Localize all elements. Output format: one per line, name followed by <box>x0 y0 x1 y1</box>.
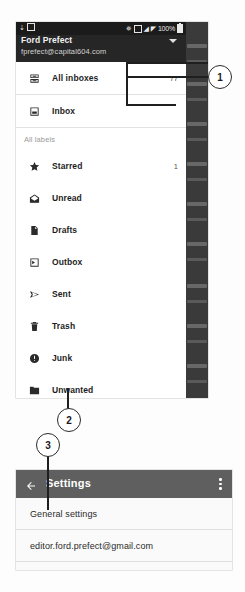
section-header-all-labels: All labels <box>16 128 186 150</box>
drawer-item-count: 77 <box>170 74 178 83</box>
settings-option-account-1[interactable]: editor.ford.prefect@gmail.com <box>16 530 232 561</box>
chevron-down-icon[interactable] <box>169 39 177 43</box>
settings-option-account-2[interactable]: ford.prefect@capital604.com <box>16 562 232 570</box>
callout-1-leader-horizontal <box>126 76 208 78</box>
drawer-item-label: Junk <box>52 353 72 363</box>
settings-option-label: General settings <box>16 509 97 519</box>
settings-option-label: editor.ford.prefect@gmail.com <box>16 541 153 551</box>
outbox-icon <box>16 257 52 268</box>
drawer-item-label: Inbox <box>52 106 75 116</box>
vibrate-icon <box>134 25 142 33</box>
status-bar-left-icons: ⇣ <box>19 23 35 31</box>
drawer-item-unread[interactable]: Unread <box>16 182 186 214</box>
dimmed-mail-list-background <box>186 22 208 398</box>
drawer-item-label: All inboxes <box>52 73 98 83</box>
inbox-icon <box>16 106 52 117</box>
status-bar: ⇣ ✵ ◢ ◤ 100% <box>16 22 186 35</box>
drawer-item-label: Outbox <box>52 257 82 267</box>
sent-paper-plane-icon <box>16 289 52 300</box>
account-email: fprefect@capital604.com <box>21 47 106 56</box>
callout-number: 2 <box>66 415 72 426</box>
drawer-item-trash[interactable]: Trash <box>16 310 186 342</box>
figure-page: Ford Prefect fprefect@capital604.com ⇣ ✵… <box>0 0 245 592</box>
drawer-item-inbox[interactable]: Inbox <box>16 95 186 127</box>
drawer-item-label: Trash <box>52 321 75 331</box>
drawer-item-label: Starred <box>52 161 82 171</box>
drawer-item-label: Unread <box>52 193 82 203</box>
back-arrow-icon[interactable] <box>25 478 37 490</box>
app-notification-icon <box>27 23 35 31</box>
drawer-item-all-inboxes[interactable]: All inboxes 77 <box>16 62 186 94</box>
drawer-item-label: Drafts <box>52 225 77 235</box>
download-icon: ⇣ <box>19 24 25 31</box>
junk-alert-icon <box>16 353 52 364</box>
callout-1-leader-top <box>126 62 208 64</box>
navigation-drawer: All inboxes 77 Inbox All labels Starred <box>16 62 186 398</box>
drawer-item-unwanted[interactable]: Unwanted <box>16 374 186 398</box>
callout-number: 3 <box>45 440 51 451</box>
callout-1-leader-vertical <box>126 62 128 106</box>
all-inboxes-icon <box>16 73 52 84</box>
battery-full-icon <box>177 24 183 33</box>
battery-percent-label: 100% <box>158 25 175 32</box>
folder-icon <box>16 385 52 396</box>
callout-3: 3 <box>36 433 60 457</box>
drawer-item-drafts[interactable]: Drafts <box>16 214 186 246</box>
callout-number: 1 <box>217 72 223 83</box>
drawer-item-count: 1 <box>174 162 178 171</box>
drafts-file-icon <box>16 225 52 236</box>
drawer-item-junk[interactable]: Junk <box>16 342 186 374</box>
star-icon <box>16 161 52 172</box>
status-bar-right-icons: ✵ ◢ ◤ 100% <box>126 22 183 35</box>
trash-icon <box>16 321 52 332</box>
cellular-signal-icon: ◤ <box>151 25 156 32</box>
overflow-menu-icon[interactable] <box>219 478 222 491</box>
unread-envelope-icon <box>16 193 52 204</box>
account-name: Ford Prefect <box>21 35 72 45</box>
section-header-label: All labels <box>16 135 55 144</box>
wifi-icon: ◢ <box>144 25 149 32</box>
drawer-item-outbox[interactable]: Outbox <box>16 246 186 278</box>
callout-3-leader <box>47 452 49 510</box>
callout-1: 1 <box>208 65 232 89</box>
drawer-item-starred[interactable]: Starred 1 <box>16 150 186 182</box>
callout-2: 2 <box>57 408 81 432</box>
drawer-item-label: Sent <box>52 289 71 299</box>
callout-1-leader-to-inbox <box>126 104 176 106</box>
drawer-screenshot: Ford Prefect fprefect@capital604.com ⇣ ✵… <box>16 22 208 398</box>
bluetooth-icon: ✵ <box>126 25 132 32</box>
drawer-item-sent[interactable]: Sent <box>16 278 186 310</box>
drawer-item-label: Unwanted <box>52 385 93 395</box>
settings-title: Settings <box>46 477 91 489</box>
